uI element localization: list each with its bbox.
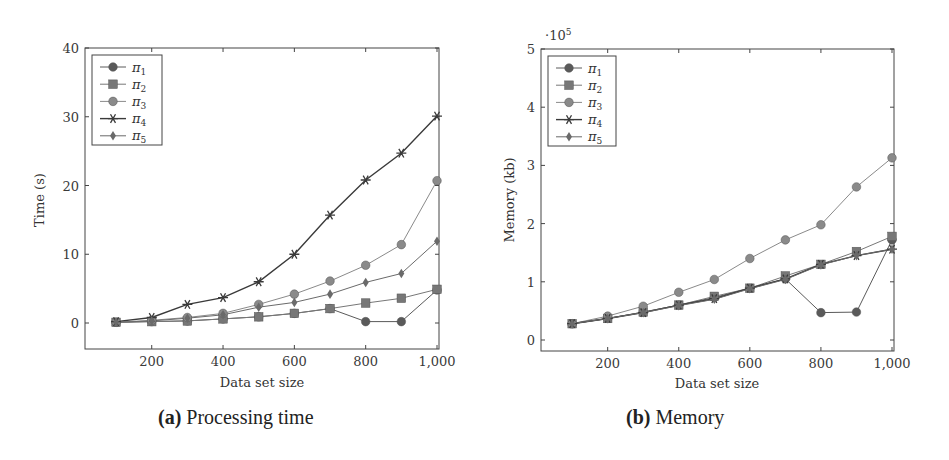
x-tick-label: 800 (353, 354, 378, 369)
y-tick-label: 40 (62, 41, 79, 56)
series-line-π3 (572, 158, 892, 324)
series-line-π4 (116, 116, 437, 322)
caption-a-tag: (a) (158, 406, 181, 428)
y-tick-label: 2 (527, 217, 535, 232)
x-tick-label: 600 (282, 354, 307, 369)
chart-a: 0102030402004006008001,000Data set sizeT… (32, 41, 456, 390)
caption-b: (b) Memory (626, 406, 724, 429)
series-markers-π3 (568, 154, 896, 328)
series-line-π2 (116, 289, 437, 322)
y-axis-label: Memory (kb) (502, 157, 517, 242)
y-tick-label: 0 (527, 333, 535, 348)
y-tick-label: 3 (527, 158, 535, 173)
x-tick-label: 1,000 (418, 354, 455, 369)
y-tick-label: 10 (62, 247, 79, 262)
x-tick-label: 600 (737, 356, 762, 371)
series-markers-π1 (568, 236, 896, 328)
x-tick-label: 200 (595, 356, 620, 371)
y-tick-label: 0 (71, 316, 79, 331)
legend: π1π2π3π4π5 (548, 56, 616, 146)
x-tick-label: 400 (211, 354, 236, 369)
series-markers-π5 (569, 244, 895, 328)
y-tick-label: 20 (62, 179, 79, 194)
series-line-π2 (572, 236, 892, 323)
x-tick-label: 400 (666, 356, 691, 371)
y-tick-label: 4 (527, 100, 535, 115)
x-axis-label: Data set size (220, 375, 305, 390)
y-tick-label: 30 (62, 110, 79, 125)
series-line-π5 (116, 241, 437, 322)
y-scale-multiplier: ·105 (545, 27, 572, 43)
figure-canvas: 0102030402004006008001,000Data set sizeT… (0, 0, 949, 460)
y-axis-label: Time (s) (32, 173, 47, 227)
caption-a: (a) Processing time (158, 406, 314, 429)
x-tick-label: 800 (809, 356, 834, 371)
caption-b-text: Memory (655, 406, 724, 428)
series-line-π3 (116, 181, 437, 323)
x-tick-label: 200 (139, 354, 164, 369)
series-line-π1 (572, 240, 892, 324)
x-axis-label: Data set size (675, 376, 760, 391)
chart-b: 0123452004006008001,000Data set sizeMemo… (502, 27, 911, 391)
x-tick-label: 1,000 (873, 356, 910, 371)
series-markers-π3 (112, 176, 442, 326)
y-tick-label: 1 (527, 275, 535, 290)
legend: π1π2π3π4π5 (92, 55, 162, 145)
caption-a-text: Processing time (186, 406, 313, 428)
caption-b-tag: (b) (626, 406, 650, 428)
series-line-π1 (116, 290, 437, 322)
y-tick-label: 5 (527, 42, 535, 57)
